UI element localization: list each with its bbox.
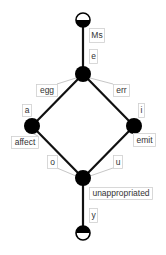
svg-text:affect: affect bbox=[15, 137, 36, 147]
lattice-diagram: Mseeggerraaffectiemitouunappropriatedy bbox=[0, 0, 166, 255]
svg-text:err: err bbox=[116, 85, 127, 95]
svg-text:i: i bbox=[141, 105, 143, 115]
svg-text:emit: emit bbox=[136, 135, 153, 145]
svg-text:unappropriated: unappropriated bbox=[92, 188, 149, 198]
node-n_a[interactable] bbox=[24, 118, 40, 134]
svg-text:e: e bbox=[91, 51, 96, 61]
label-err: err bbox=[114, 85, 130, 97]
terminal-node-top[interactable] bbox=[76, 13, 90, 27]
edge-n_a-n_bottom bbox=[32, 126, 83, 178]
svg-text:u: u bbox=[116, 157, 121, 167]
leader-line bbox=[90, 168, 113, 176]
terminal-node-bottom[interactable] bbox=[76, 226, 90, 240]
edge-n_i-n_bottom bbox=[83, 126, 134, 178]
node-n_bottom[interactable] bbox=[75, 170, 91, 186]
label-affect: affect bbox=[12, 137, 39, 149]
label-y: y bbox=[90, 209, 98, 223]
svg-text:a: a bbox=[25, 105, 30, 115]
svg-text:Ms: Ms bbox=[91, 30, 102, 40]
label-i: i bbox=[139, 104, 145, 118]
svg-text:egg: egg bbox=[40, 85, 54, 95]
label-emit: emit bbox=[134, 134, 156, 147]
svg-text:o: o bbox=[50, 157, 55, 167]
label-unappropriated: unappropriated bbox=[90, 188, 153, 200]
node-n_i[interactable] bbox=[126, 118, 142, 134]
label-e: e bbox=[90, 50, 98, 64]
edge-n_e-n_i bbox=[83, 74, 134, 126]
node-n_e[interactable] bbox=[75, 66, 91, 82]
label-Ms: Ms bbox=[90, 29, 105, 43]
label-egg: egg bbox=[37, 85, 58, 97]
label-o: o bbox=[48, 156, 58, 169]
label-a: a bbox=[23, 105, 32, 117]
edge-n_e-n_a bbox=[32, 74, 83, 126]
diagram-edges bbox=[32, 20, 134, 233]
label-u: u bbox=[114, 156, 123, 169]
